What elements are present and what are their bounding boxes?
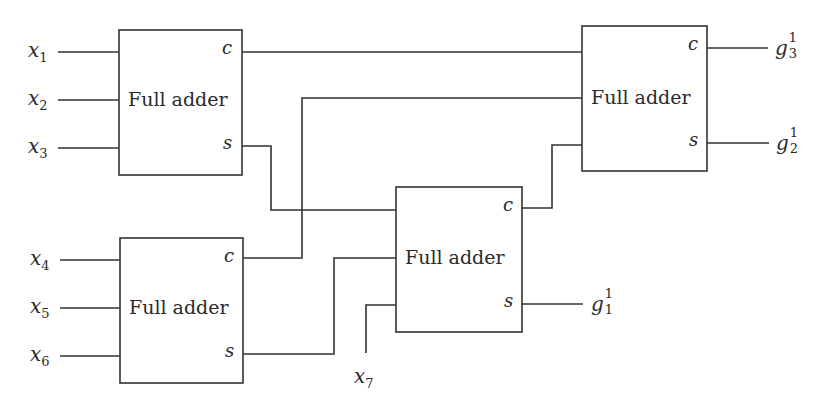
wire-fa2-sum xyxy=(243,258,396,354)
full-adder-4-carry-label: c xyxy=(688,33,698,54)
full-adder-3-carry-label: c xyxy=(503,194,513,215)
output-g1-2: g12 xyxy=(776,131,798,155)
input-x6: x6 xyxy=(30,342,50,369)
full-adder-3-sum-label: s xyxy=(504,290,513,311)
input-x3: x3 xyxy=(28,134,48,161)
input-x4: x4 xyxy=(30,246,50,273)
output-g1-3: g13 xyxy=(775,36,797,60)
output-g1-1: g11 xyxy=(591,292,613,316)
full-adder-1-label: Full adder xyxy=(128,88,228,110)
full-adder-1-sum-label: s xyxy=(223,132,232,153)
full-adder-1-carry-label: c xyxy=(222,37,232,58)
input-x1: x1 xyxy=(28,38,48,65)
input-x2: x2 xyxy=(28,86,48,113)
wire-fa1-sum xyxy=(242,146,396,210)
full-adder-4-label: Full adder xyxy=(591,86,691,108)
input-x7: x7 xyxy=(354,364,374,391)
wire-x7 xyxy=(366,305,396,353)
full-adder-3-label: Full adder xyxy=(405,246,505,268)
circuit-wiring xyxy=(0,0,822,405)
full-adder-2-carry-label: c xyxy=(224,245,234,266)
input-x5: x5 xyxy=(30,294,50,321)
wire-fa3-carry xyxy=(522,145,582,208)
full-adder-4-sum-label: s xyxy=(689,129,698,150)
full-adder-2-label: Full adder xyxy=(129,296,229,318)
full-adder-2-sum-label: s xyxy=(225,340,234,361)
